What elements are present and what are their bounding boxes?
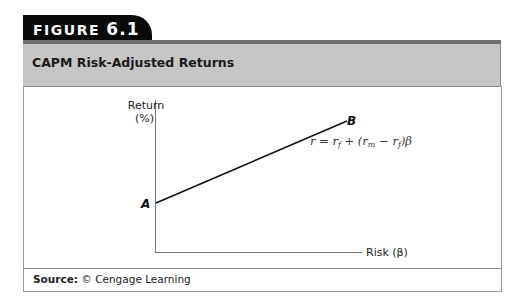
y-axis-label-line1: Return xyxy=(128,99,165,112)
point-b-label: B xyxy=(347,114,356,128)
capm-equation: r = rf + (rm − rf)β xyxy=(310,134,412,149)
y-axis-label-line2: (%) xyxy=(135,112,154,125)
capm-diagram: Return (%) Risk (β) A B r = rf + (rm − r… xyxy=(0,0,519,305)
point-a-label: A xyxy=(140,197,150,211)
x-axis-label: Risk (β) xyxy=(366,246,408,259)
